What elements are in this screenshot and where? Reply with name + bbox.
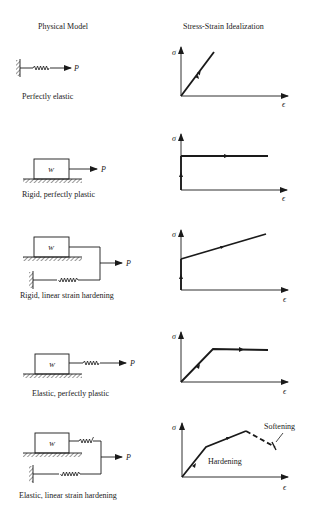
hardening-label: Hardening: [208, 457, 242, 466]
force-label: P: [129, 359, 135, 368]
epsilon-axis-label: ϵ: [282, 194, 286, 203]
diagram-canvas: P σ ϵ W P σ ϵ W: [0, 0, 319, 510]
epsilon-axis-label: ϵ: [283, 387, 287, 396]
model-rigid-linear-strain-hardening: W P: [23, 237, 131, 289]
model-elastic-linear-strain-hardening: W P: [23, 433, 131, 483]
force-label: P: [125, 453, 131, 462]
force-label: P: [125, 259, 131, 268]
sigma-axis-label: σ: [172, 134, 177, 143]
model-perfectly-elastic: P: [16, 59, 79, 77]
graph-rigid-perfectly-plastic: σ ϵ: [172, 134, 287, 203]
graph-elastic-linear-strain-hardening: σ ϵ Softening Hardening: [172, 422, 295, 492]
ground-hatch: [23, 179, 82, 183]
spring-icon: [83, 361, 99, 365]
wall-icon: [29, 272, 33, 288]
ground-hatch: [23, 257, 82, 261]
spring-icon: [33, 66, 49, 70]
spring-icon: [79, 437, 94, 443]
epsilon-axis-label: ϵ: [283, 295, 287, 304]
spring-icon: [59, 278, 79, 282]
spring-icon: [61, 472, 81, 476]
softening-label: Softening: [264, 422, 295, 431]
epsilon-axis-label: ϵ: [283, 483, 287, 492]
sigma-axis-label: σ: [172, 332, 177, 341]
epsilon-axis-label: ϵ: [282, 100, 286, 109]
ground-hatch: [23, 453, 82, 457]
model-rigid-perfectly-plastic: W P: [23, 159, 106, 183]
wall-icon: [16, 60, 20, 76]
sigma-axis-label: σ: [172, 230, 177, 239]
force-label: P: [73, 64, 79, 73]
model-elastic-perfectly-plastic: W P: [23, 354, 135, 378]
graph-elastic-perfectly-plastic: σ ϵ: [172, 332, 288, 396]
sigma-axis-label: σ: [172, 48, 177, 57]
graph-perfectly-elastic: σ ϵ: [172, 47, 288, 109]
ground-hatch: [23, 374, 82, 378]
wall-icon: [29, 466, 33, 482]
sigma-axis-label: σ: [172, 423, 177, 432]
force-label: P: [100, 165, 106, 174]
graph-rigid-linear-strain-hardening: σ ϵ: [172, 230, 288, 304]
